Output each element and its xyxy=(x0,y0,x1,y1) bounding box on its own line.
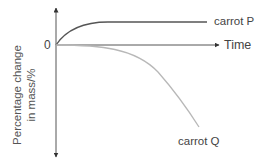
carrot-p-curve xyxy=(56,22,207,45)
carrot-p-label: carrot P xyxy=(214,16,254,28)
origin-label: 0 xyxy=(44,39,51,51)
carrot-q-curve xyxy=(56,45,199,127)
carrot-q-label: carrot Q xyxy=(178,136,220,148)
x-axis-label: Time xyxy=(224,39,251,52)
y-axis-label-line1: Percentage change xyxy=(10,45,24,145)
y-axis-label-line2: in mass/% xyxy=(24,45,38,145)
